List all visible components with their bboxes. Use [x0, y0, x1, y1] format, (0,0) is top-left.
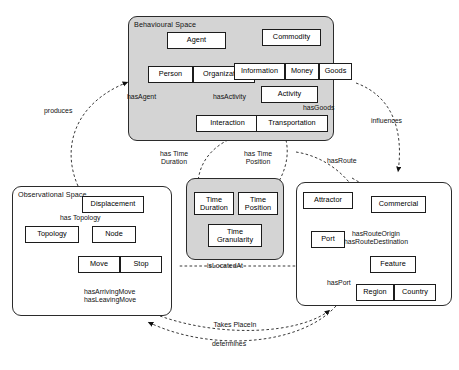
node-node[interactable]: Node [92, 226, 136, 243]
edge-label-produces: produces [44, 107, 72, 115]
edge-label-has-activity: hasActivity [213, 93, 246, 101]
edge-label-is-located-at: isLocatedAt [207, 262, 243, 270]
panel-observational-space-title: Observational Space [18, 190, 87, 199]
node-time-granularity[interactable]: Time Granularity [208, 224, 262, 247]
node-topology[interactable]: Topology [25, 226, 79, 243]
node-goods[interactable]: Goods [319, 63, 352, 80]
edge-label-has-route-destination: hasRouteDestination [344, 238, 408, 246]
node-commodity[interactable]: Commodity [262, 29, 321, 46]
edge-label-has-route: hasRoute [327, 157, 357, 165]
edge-label-has-time-position: has Time Position [233, 150, 283, 166]
diagram-canvas: Behavioural Space Observational Space Ag… [0, 0, 459, 370]
node-country[interactable]: Country [394, 284, 436, 301]
edge-label-has-goods: hasGoods [303, 104, 334, 112]
node-stop[interactable]: Stop [120, 256, 162, 273]
node-move[interactable]: Move [78, 256, 120, 273]
node-displacement[interactable]: Displacement [82, 196, 144, 213]
node-agent[interactable]: Agent [167, 32, 226, 49]
edge-label-has-time-duration: has Time Duration [148, 150, 200, 166]
node-region[interactable]: Region [356, 284, 394, 301]
edge-label-has-leaving-move: hasLeavingMove [84, 296, 136, 304]
node-attractor[interactable]: Attractor [303, 192, 353, 209]
edge-label-has-agent: hasAgent [127, 93, 156, 101]
panel-time-space [186, 178, 284, 260]
node-port[interactable]: Port [311, 231, 345, 248]
node-interaction[interactable]: Interaction [196, 115, 259, 132]
node-feature[interactable]: Feature [370, 256, 416, 273]
edge-label-has-topology: has Topology [60, 214, 100, 222]
edge-label-takes-place-in: Takes PlaceIn [212, 321, 258, 329]
node-activity[interactable]: Activity [261, 86, 318, 103]
node-commercial[interactable]: Commercial [371, 196, 426, 213]
edge-label-has-port: hasPort [327, 279, 351, 287]
panel-behavioural-space-title: Behavioural Space [134, 20, 196, 29]
edge-label-has-route-origin: hasRouteOrigin [352, 230, 400, 238]
node-transportation[interactable]: Transportation [256, 115, 328, 132]
node-money[interactable]: Money [285, 63, 319, 80]
node-person[interactable]: Person [148, 66, 193, 83]
edge-label-has-arriving-move: hasArrivingMove [84, 288, 135, 296]
edge-label-influences: influences [371, 117, 402, 125]
node-information[interactable]: Information [234, 63, 285, 80]
edge-label-determines: determines [212, 340, 246, 348]
node-time-duration[interactable]: Time Duration [194, 192, 234, 215]
node-time-position[interactable]: Time Position [238, 192, 278, 215]
